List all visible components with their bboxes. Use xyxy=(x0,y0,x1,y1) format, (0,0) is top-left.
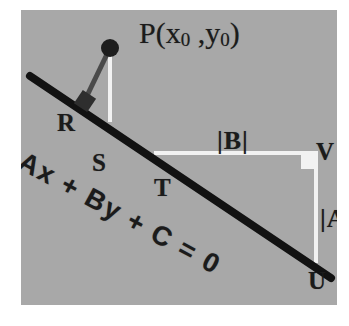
label-point-r: R xyxy=(57,110,75,135)
label-abs-b: |B| xyxy=(217,128,249,154)
label-point-v: V xyxy=(316,139,334,164)
diagram-panel: P(x0 ,y0) R S T U V |B| |A| Ax + By + C … xyxy=(21,10,337,305)
label-point-u: U xyxy=(308,268,326,293)
label-point-s: S xyxy=(92,150,106,175)
label-point-p: P(x0 ,y0) xyxy=(139,18,240,48)
point-P-dot xyxy=(101,39,119,57)
right-angle-marker-V-icon xyxy=(301,155,315,169)
label-point-t: T xyxy=(154,175,171,200)
figure-root: P(x0 ,y0) R S T U V |B| |A| Ax + By + C … xyxy=(0,0,349,326)
label-abs-a: |A| xyxy=(320,206,337,232)
